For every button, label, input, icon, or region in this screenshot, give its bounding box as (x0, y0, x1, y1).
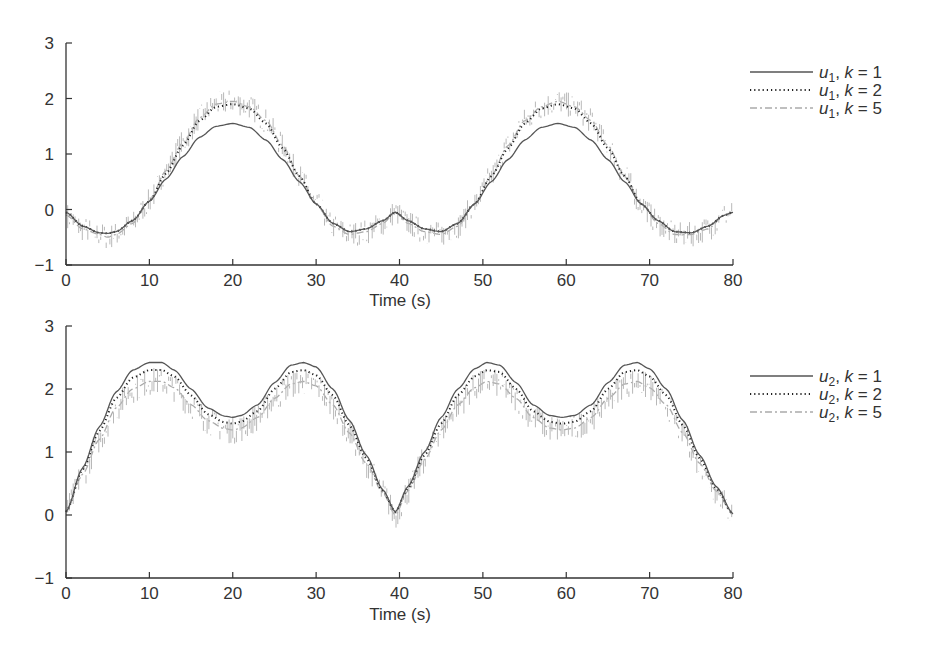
y-tick-label: −1 (35, 256, 54, 275)
u1-x-axis-title: Time (s) (369, 291, 431, 310)
x-tick-label: 10 (140, 271, 159, 290)
y-tick-label: 1 (45, 443, 54, 462)
x-tick-label: 0 (61, 584, 70, 603)
series-line (66, 124, 733, 234)
legend-label: u1, k = 5 (819, 99, 882, 121)
x-tick-label: 20 (223, 271, 242, 290)
x-tick-label: 70 (640, 271, 659, 290)
y-tick-label: 2 (45, 90, 54, 109)
x-tick-label: 30 (307, 584, 326, 603)
x-tick-label: 40 (390, 271, 409, 290)
u2-legend: u2, k = 1u2, k = 2u2, k = 5 (750, 367, 882, 425)
y-tick-label: 3 (45, 317, 54, 336)
x-tick-label: 60 (557, 271, 576, 290)
bottom-plot-u2: 01020304050607080−10123 Time (s) u2, k =… (35, 317, 882, 624)
x-tick-label: 50 (473, 584, 492, 603)
x-tick-label: 0 (61, 271, 70, 290)
u1-series (66, 91, 733, 248)
y-tick-label: 3 (45, 34, 54, 53)
y-tick-label: 1 (45, 145, 54, 164)
chart-canvas: 01020304050607080−10123 Time (s) u1, k =… (0, 0, 935, 665)
y-tick-label: 2 (45, 380, 54, 399)
u2-x-axis-title: Time (s) (369, 605, 431, 624)
u1-axes: 01020304050607080−10123 (35, 34, 743, 290)
x-tick-label: 80 (724, 271, 743, 290)
u2-series (66, 363, 733, 528)
legend-label: u2, k = 5 (819, 403, 882, 425)
top-plot-u1: 01020304050607080−10123 Time (s) u1, k =… (35, 34, 882, 310)
x-tick-label: 50 (473, 271, 492, 290)
y-tick-label: 0 (45, 201, 54, 220)
x-tick-label: 10 (140, 584, 159, 603)
series-line (66, 101, 732, 237)
y-tick-label: −1 (35, 569, 54, 588)
y-tick-label: 0 (45, 506, 54, 525)
x-tick-label: 40 (390, 584, 409, 603)
u1-legend: u1, k = 1u1, k = 2u1, k = 5 (750, 63, 882, 121)
x-tick-label: 60 (557, 584, 576, 603)
u2-axes: 01020304050607080−10123 (35, 317, 743, 603)
series-noise (68, 91, 732, 248)
x-tick-label: 80 (724, 584, 743, 603)
series-line (66, 381, 732, 515)
x-tick-label: 70 (640, 584, 659, 603)
x-tick-label: 20 (223, 584, 242, 603)
x-tick-label: 30 (307, 271, 326, 290)
